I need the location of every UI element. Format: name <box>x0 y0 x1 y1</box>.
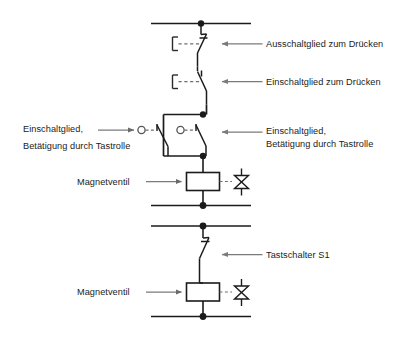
label-break-contact: Ausschaltglied zum Drücken <box>266 38 383 51</box>
solenoid-coil-lower <box>187 283 220 301</box>
roller-circle-left <box>138 126 145 133</box>
node-dot-bottom-rail <box>200 313 207 320</box>
label-roller-contact-left-line2: Betätigung durch Tastrolle <box>23 140 130 153</box>
circuit-schematic <box>0 0 411 343</box>
label-pushbutton-s1: Tastschalter S1 <box>266 249 330 262</box>
label-solenoid-lower: Magnetventil <box>77 286 130 299</box>
node-dot-mid-rail <box>200 202 207 209</box>
label-roller-contact-left-line1: Einschaltglied, <box>23 123 83 136</box>
valve-symbol-upper <box>220 169 249 196</box>
pushbutton-contact-s1 <box>200 226 210 283</box>
diagram-canvas: Ausschaltglied zum Drücken Einschaltglie… <box>0 0 411 343</box>
solenoid-coil-upper <box>187 173 220 191</box>
make-contact-symbol <box>173 67 207 105</box>
roller-circle-right <box>177 126 184 133</box>
break-contact-symbol <box>173 24 208 67</box>
label-solenoid-upper: Magnetventil <box>77 176 130 189</box>
label-roller-contact-right-line2: Betätigung durch Tastrolle <box>266 138 373 151</box>
label-make-contact: Einschaltglied zum Drücken <box>266 76 381 89</box>
valve-symbol-lower <box>220 279 249 306</box>
roller-contact-right <box>177 124 206 156</box>
label-roller-contact-right-line1: Einschaltglied, <box>266 125 326 138</box>
